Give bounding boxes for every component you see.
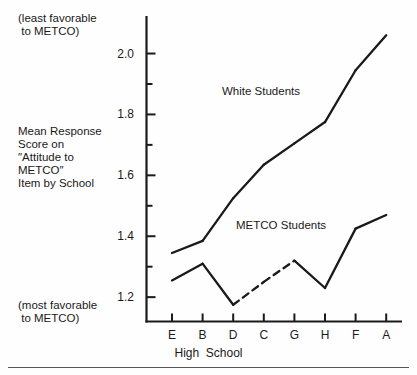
x-tick-label: H [314, 329, 336, 341]
data-series [172, 35, 386, 304]
series-1-segment [233, 282, 264, 305]
series-0-segment [294, 122, 325, 143]
series-0-segment [264, 143, 295, 164]
series-1-segment [294, 261, 325, 288]
series-0-segment [203, 198, 234, 241]
x-tick-label: B [192, 329, 214, 341]
x-tick-label: D [222, 329, 244, 341]
y-tick-label: 1.2 [100, 291, 134, 303]
x-tick-label: C [253, 329, 275, 341]
bottom-divider [8, 367, 409, 368]
y-tick-label: 1.4 [100, 230, 134, 242]
y-axis-ticks [147, 54, 156, 298]
x-tick-label: E [161, 329, 183, 341]
series-1-segment [172, 264, 203, 281]
series-1-segment [264, 261, 295, 282]
y-tick-label: 1.6 [100, 169, 134, 181]
series-1-segment [356, 215, 387, 229]
series-0-segment [356, 35, 387, 70]
series-label-metco-students: METCO Students [236, 219, 326, 231]
series-0-segment [233, 165, 264, 198]
series-1-segment [325, 229, 356, 288]
x-axis-title: High School [0, 347, 417, 360]
x-tick-label: A [375, 329, 397, 341]
series-1-segment [203, 264, 234, 305]
y-tick-label: 2.0 [100, 48, 134, 60]
series-0-segment [172, 241, 203, 253]
chart-figure: (least favorable to METCO) Mean Response… [0, 0, 417, 375]
series-0-segment [325, 70, 356, 122]
x-tick-label: F [345, 329, 367, 341]
series-label-white-students: White Students [222, 85, 300, 97]
y-tick-label: 1.8 [100, 108, 134, 120]
x-tick-label: G [283, 329, 305, 341]
x-axis-ticks [172, 314, 386, 322]
plot-area [0, 0, 417, 375]
